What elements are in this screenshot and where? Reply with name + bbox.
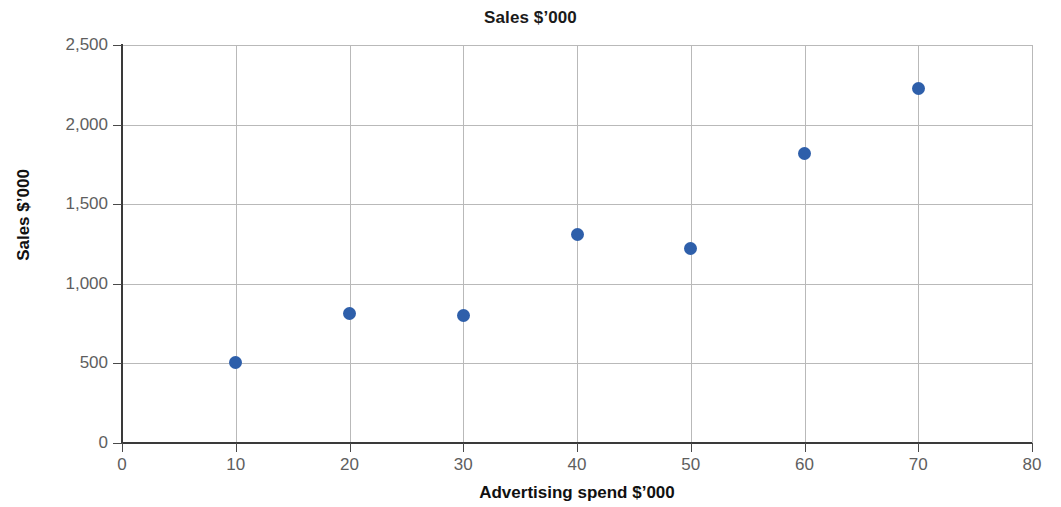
data-point[interactable] xyxy=(571,228,584,241)
x-axis-tick xyxy=(350,443,351,452)
x-axis-tick xyxy=(918,443,919,452)
gridline-vertical xyxy=(1032,45,1033,443)
y-axis-tick-label: 2,500 xyxy=(38,35,108,55)
x-axis-tick xyxy=(805,443,806,452)
y-axis-tick xyxy=(113,125,122,126)
data-point[interactable] xyxy=(457,309,470,322)
x-axis-tick xyxy=(236,443,237,452)
gridline-vertical xyxy=(577,45,578,443)
scatter-chart: Sales $’000 05001,0001,5002,0002,500 010… xyxy=(0,0,1061,507)
x-axis-tick xyxy=(1032,443,1033,452)
y-axis-tick xyxy=(113,443,122,444)
x-axis-tick-label: 60 xyxy=(770,455,840,475)
y-axis-tick-label: 1,000 xyxy=(38,274,108,294)
x-axis-tick xyxy=(463,443,464,452)
x-axis-tick-label: 10 xyxy=(201,455,271,475)
y-axis-tick-labels: 05001,0001,5002,0002,500 xyxy=(38,0,108,507)
gridline-vertical xyxy=(805,45,806,443)
data-point[interactable] xyxy=(912,82,925,95)
y-axis-tick-label: 0 xyxy=(38,433,108,453)
x-axis-tick-label: 80 xyxy=(997,455,1061,475)
gridline-vertical xyxy=(463,45,464,443)
x-axis-tick-label: 70 xyxy=(883,455,953,475)
plot-area xyxy=(122,45,1032,443)
x-axis-tick xyxy=(122,443,123,452)
y-axis-tick-label: 1,500 xyxy=(38,194,108,214)
x-axis-tick xyxy=(577,443,578,452)
y-axis-line xyxy=(121,44,123,444)
y-axis-tick xyxy=(113,284,122,285)
y-axis-tick xyxy=(113,45,122,46)
x-axis-title: Advertising spend $’000 xyxy=(122,483,1032,503)
data-point[interactable] xyxy=(229,356,242,369)
gridline-vertical xyxy=(918,45,919,443)
x-axis-tick-label: 40 xyxy=(542,455,612,475)
x-axis-tick-label: 0 xyxy=(87,455,157,475)
gridline-vertical xyxy=(350,45,351,443)
y-axis-tick-label: 2,000 xyxy=(38,115,108,135)
y-axis-tick-label: 500 xyxy=(38,353,108,373)
x-axis-tick-label: 50 xyxy=(656,455,726,475)
data-point[interactable] xyxy=(343,307,356,320)
x-axis-tick-label: 30 xyxy=(428,455,498,475)
x-axis-tick-label: 20 xyxy=(315,455,385,475)
data-point[interactable] xyxy=(684,242,697,255)
x-axis-tick xyxy=(691,443,692,452)
gridline-vertical xyxy=(236,45,237,443)
y-axis-tick xyxy=(113,204,122,205)
data-point[interactable] xyxy=(798,147,811,160)
y-axis-tick xyxy=(113,363,122,364)
chart-title: Sales $’000 xyxy=(0,8,1061,28)
y-axis-title: Sales $’000 xyxy=(14,115,34,315)
